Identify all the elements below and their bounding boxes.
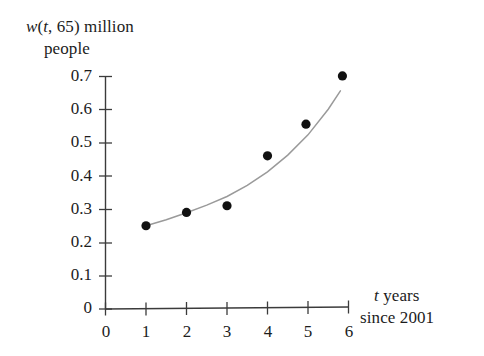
data-point-marker <box>182 208 191 217</box>
data-point-marker <box>338 71 347 80</box>
y-tick-label-0.6: 0.6 <box>52 99 92 119</box>
fitted-curve <box>146 91 340 226</box>
x-tick-label-5: 5 <box>296 322 320 342</box>
data-point-group <box>141 71 347 230</box>
x-tick-label-0: 0 <box>94 322 118 342</box>
y-tick-label-0.5: 0.5 <box>52 132 92 152</box>
y-tick-label-0.4: 0.4 <box>52 166 92 186</box>
y-tick-label-0: 0 <box>52 298 92 318</box>
y-tick-label-0.2: 0.2 <box>52 232 92 252</box>
chart-container: w(t, 65) million people t years since 20… <box>0 0 484 356</box>
x-tick-label-4: 4 <box>256 322 280 342</box>
y-tick-label-0.7: 0.7 <box>52 66 92 86</box>
y-tick-label-0.3: 0.3 <box>52 199 92 219</box>
x-tick-label-3: 3 <box>215 322 239 342</box>
data-point-marker <box>301 120 310 129</box>
data-point-marker <box>222 201 231 210</box>
data-point-marker <box>141 221 150 230</box>
x-tick-label-1: 1 <box>134 322 158 342</box>
data-point-marker <box>263 151 272 160</box>
x-tick-label-2: 2 <box>175 322 199 342</box>
x-tick-label-6: 6 <box>337 322 361 342</box>
y-tick-label-0.1: 0.1 <box>52 265 92 285</box>
